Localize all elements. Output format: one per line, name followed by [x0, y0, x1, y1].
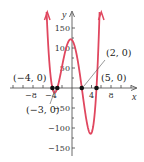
x-tick-4: 4	[89, 91, 94, 100]
intercept-point-neg4	[50, 86, 55, 91]
intercept-point-neg3	[55, 86, 60, 91]
x-tick-neg8: −8	[25, 91, 37, 100]
x-tick-8: 8	[108, 91, 113, 100]
label-point-5: (5, 0)	[101, 72, 127, 83]
label-point-neg3: (−3, 0)	[26, 104, 60, 115]
y-tick-neg100: −100	[48, 124, 70, 133]
intercept-point-2	[80, 86, 85, 91]
y-tick-150: 150	[55, 24, 70, 33]
intercept-point-5	[94, 86, 99, 91]
x-axis-label: x	[131, 91, 137, 102]
label-point-neg4: (−4, 0)	[13, 72, 47, 83]
label-point-2: (2, 0)	[106, 47, 132, 58]
y-tick-neg150: −150	[48, 144, 70, 153]
y-axis-label: y	[61, 9, 67, 20]
x-axis: x −8 −4 4 8	[10, 85, 137, 102]
polynomial-graph: y 150 100 50 −50 −100 −150 x	[0, 0, 144, 162]
